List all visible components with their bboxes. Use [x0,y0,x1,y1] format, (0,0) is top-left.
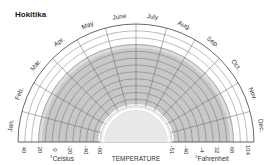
fahrenheit-tick: 68 [229,147,235,154]
fahrenheit-unit-label: °Fahrenheit [195,155,229,162]
celsius-unit-label: °Celsius [50,155,75,162]
celsius-tick: 20 [37,147,43,154]
month-label: Mar. [29,58,42,72]
month-label: Oct. [230,58,243,72]
celsius-tick: 0 [52,148,58,152]
temperature-axis-title: TEMPERATURE [112,155,161,162]
month-label: Apr. [52,35,66,49]
fahrenheit-tick: -4 [199,147,205,153]
month-label: Sep. [205,35,221,50]
month-label: Feb. [13,86,25,101]
celsius-tick: -40 [83,146,89,155]
month-label: May [80,19,95,31]
month-label: Nov. [247,86,258,101]
month-label: Aug. [177,19,193,32]
month-label: June [112,12,127,21]
celsius-tick: -60 [97,146,103,155]
fahrenheit-tick: 32 [214,147,220,154]
radial-temperature-chart: Jan.Feb.Mar.Apr.MayJuneJulyAug.Sep.Oct.N… [0,0,272,165]
month-label: Dec. [257,118,266,132]
fahrenheit-tick: -40 [183,146,189,155]
celsius-tick: 40 [21,147,27,154]
celsius-tick: -20 [67,146,73,155]
fahrenheit-tick: -51 [169,146,175,155]
month-label: Jan. [6,119,15,132]
month-label: July [146,12,159,22]
fahrenheit-tick: 104 [245,145,251,156]
